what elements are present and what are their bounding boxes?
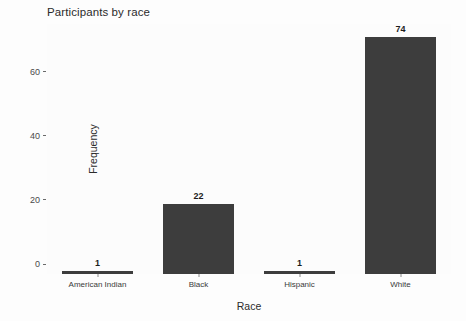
y-axis-tick-label: 0 bbox=[35, 259, 43, 269]
y-axis-tick: 20 bbox=[30, 195, 47, 205]
bar bbox=[163, 204, 234, 275]
y-axis-tick-mark bbox=[43, 135, 46, 136]
x-axis-tick-mark bbox=[299, 274, 300, 277]
bar-value-label: 74 bbox=[395, 24, 405, 34]
x-axis-tick-mark bbox=[97, 274, 98, 277]
x-axis-tick-label: Black bbox=[189, 280, 209, 289]
y-axis-tick-label: 40 bbox=[30, 131, 43, 141]
x-axis-tick-label: White bbox=[390, 280, 410, 289]
plot-panel: Frequency 02040601American Indian22Black… bbox=[47, 24, 451, 274]
y-axis-tick-label: 60 bbox=[30, 67, 43, 77]
y-axis-tick-mark bbox=[43, 71, 46, 72]
y-axis-tick-mark bbox=[43, 264, 46, 265]
y-axis-title: Frequency bbox=[87, 89, 99, 209]
bar-value-label: 22 bbox=[193, 191, 203, 201]
x-axis-title: Race bbox=[47, 300, 451, 312]
bar bbox=[365, 37, 436, 274]
y-axis-tick: 40 bbox=[30, 131, 47, 141]
y-axis-tick-label: 20 bbox=[30, 195, 43, 205]
y-axis-tick: 60 bbox=[30, 67, 47, 77]
bar-value-label: 1 bbox=[95, 258, 100, 268]
y-axis-tick: 0 bbox=[35, 259, 47, 269]
x-axis-tick-label: American Indian bbox=[69, 280, 127, 289]
y-axis-tick-mark bbox=[43, 199, 46, 200]
chart-title: Participants by race bbox=[47, 6, 150, 18]
bar-value-label: 1 bbox=[297, 258, 302, 268]
chart-figure: Participants by race Frequency 02040601A… bbox=[0, 0, 466, 321]
x-axis-tick-mark bbox=[198, 274, 199, 277]
x-axis-tick-label: Hispanic bbox=[284, 280, 315, 289]
x-axis-tick-mark bbox=[400, 274, 401, 277]
